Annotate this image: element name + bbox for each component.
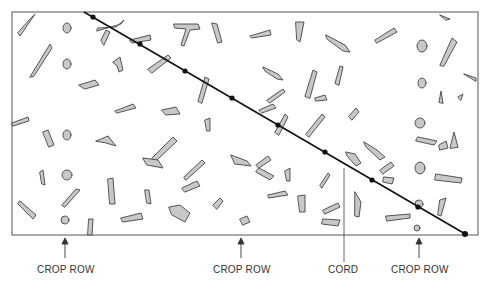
crop-row-label-3: CROP ROW bbox=[391, 264, 449, 275]
line-transect-diagram bbox=[0, 0, 490, 291]
cord-label: CORD bbox=[328, 264, 358, 275]
crop-row-arrows bbox=[62, 238, 422, 258]
crop-row-label-2: CROP ROW bbox=[213, 264, 271, 275]
crop-row-label-1: CROP ROW bbox=[37, 264, 95, 275]
